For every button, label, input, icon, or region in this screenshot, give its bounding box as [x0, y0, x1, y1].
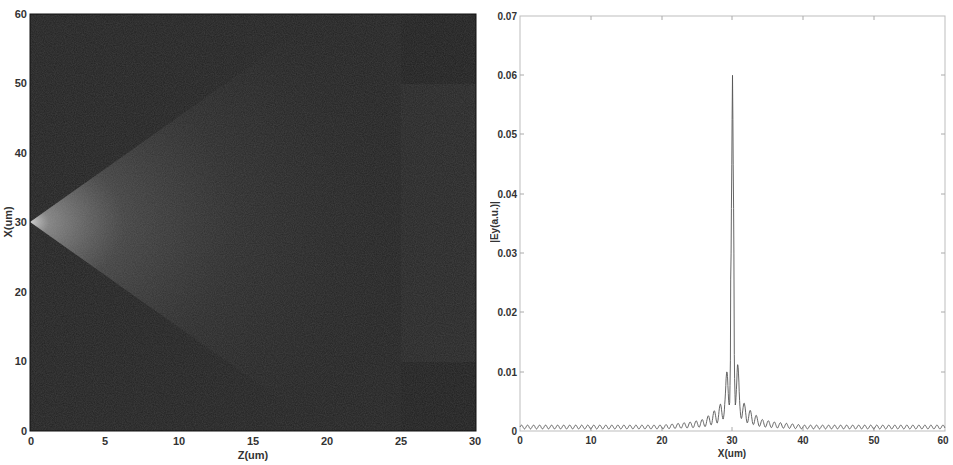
y-tick: 0.05 — [498, 129, 518, 140]
y-tick: 0 — [21, 425, 27, 437]
x-tick: 30 — [469, 435, 481, 447]
x-axis-label: X(um) — [718, 448, 746, 459]
field-map-panel: 0 10 20 30 40 50 60 X(um) 0 5 10 15 20 2… — [0, 0, 490, 465]
x-tick: 10 — [173, 435, 185, 447]
x-tick: 20 — [656, 435, 668, 446]
y-tick: 0.07 — [498, 11, 518, 22]
y-tick: 30 — [15, 216, 27, 228]
y-axis: 0 10 20 30 40 50 60 — [15, 8, 27, 437]
x-axis: 0 5 10 15 20 25 30 — [28, 435, 481, 447]
y-tick: 0.04 — [498, 189, 518, 200]
x-tick: 5 — [102, 435, 108, 447]
y-tick: 50 — [15, 77, 27, 89]
y-axis-label: X(um) — [2, 206, 14, 238]
y-tick: 0.03 — [498, 248, 518, 259]
x-tick: 15 — [247, 435, 259, 447]
x-tick: 60 — [937, 435, 949, 446]
y-tick: 0.02 — [498, 307, 518, 318]
y-tick: 40 — [15, 147, 27, 159]
x-tick: 25 — [395, 435, 407, 447]
x-tick: 40 — [797, 435, 809, 446]
field-map-svg: 0 10 20 30 40 50 60 X(um) 0 5 10 15 20 2… — [0, 0, 490, 465]
x-tick: 10 — [585, 435, 597, 446]
y-tick: 0.06 — [498, 70, 518, 81]
x-tick: 0 — [517, 435, 523, 446]
profile-plot-svg: 0 0.01 0.02 0.03 0.04 0.05 0.06 0.07 |Ey… — [490, 0, 953, 465]
x-tick: 20 — [321, 435, 333, 447]
x-tick: 0 — [28, 435, 34, 447]
y-tick: 20 — [15, 286, 27, 298]
y-tick: 60 — [15, 8, 27, 20]
x-axis-label: Z(um) — [238, 449, 269, 461]
y-axis-label: |Ey(a.u.)| — [490, 201, 500, 243]
x-tick: 30 — [726, 435, 738, 446]
profile-plot-panel: 0 0.01 0.02 0.03 0.04 0.05 0.06 0.07 |Ey… — [490, 0, 953, 465]
y-tick: 0.01 — [498, 367, 518, 378]
y-tick: 10 — [15, 355, 27, 367]
x-tick: 50 — [868, 435, 880, 446]
